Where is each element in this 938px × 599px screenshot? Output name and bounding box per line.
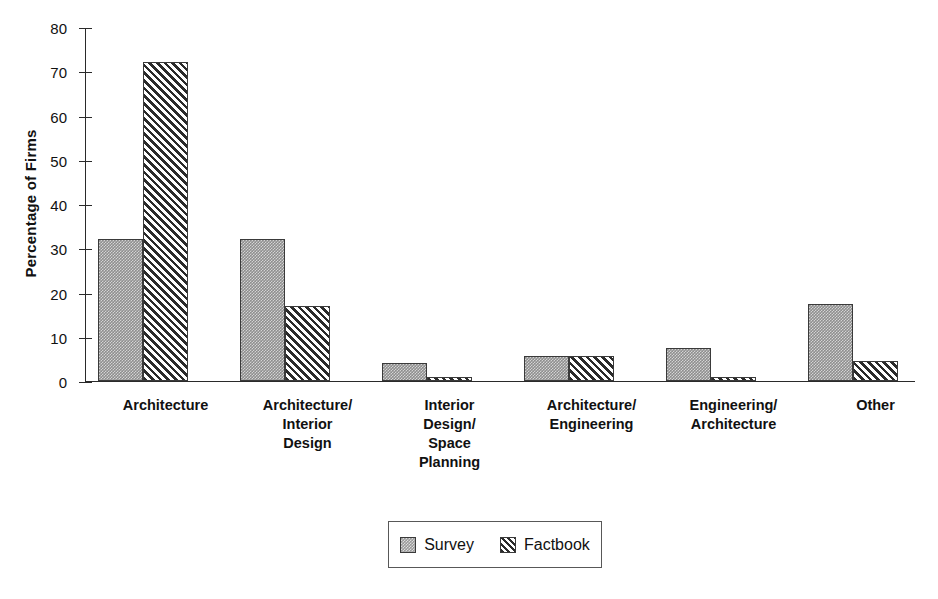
bar-factbook-1 (285, 306, 330, 381)
bar-factbook-5 (853, 361, 898, 381)
x-axis-line (85, 381, 915, 382)
bar-survey-1 (240, 239, 285, 381)
y-tick: 20 (79, 294, 92, 295)
bar-factbook-4 (711, 377, 756, 381)
y-tick: 60 (79, 117, 92, 118)
x-category-label: Other (798, 396, 938, 415)
y-tick-label: 10 (50, 330, 67, 345)
legend-item-survey: Survey (400, 537, 474, 553)
bar-survey-4 (666, 348, 711, 381)
y-tick-label: 70 (50, 65, 67, 80)
y-tick: 30 (79, 249, 92, 250)
y-tick-label: 20 (50, 286, 67, 301)
legend-label-survey: Survey (424, 537, 474, 553)
x-category-label: Engineering/ Architecture (656, 396, 811, 434)
y-tick: 70 (79, 72, 92, 73)
plot-area: 01020304050607080 (85, 28, 915, 382)
y-tick: 50 (79, 161, 92, 162)
bar-survey-3 (524, 356, 569, 381)
x-category-label: Architecture/ Engineering (514, 396, 669, 434)
bar-survey-2 (382, 363, 427, 381)
y-tick: 40 (79, 205, 92, 206)
x-category-label: Interior Design/ Space Planning (372, 396, 527, 472)
legend-swatch-survey-icon (400, 537, 416, 553)
y-tick: 10 (79, 338, 92, 339)
y-tick-label: 50 (50, 153, 67, 168)
y-axis-title: Percentage of Firms (22, 94, 39, 314)
bar-factbook-3 (569, 356, 614, 381)
bar-survey-5 (808, 304, 853, 381)
y-tick-label: 0 (59, 375, 67, 390)
x-category-label: Architecture/ Interior Design (230, 396, 385, 453)
legend-swatch-factbook-icon (500, 537, 516, 553)
legend-label-factbook: Factbook (524, 537, 590, 553)
x-category-label: Architecture (88, 396, 243, 415)
y-tick-label: 30 (50, 242, 67, 257)
y-tick-label: 80 (50, 21, 67, 36)
y-tick: 80 (79, 28, 92, 29)
y-tick: 0 (79, 382, 92, 383)
y-tick-label: 60 (50, 109, 67, 124)
chart-legend: Survey Factbook (388, 521, 602, 568)
bar-chart: Percentage of Firms 01020304050607080 Ar… (0, 0, 938, 599)
bar-survey-0 (98, 239, 143, 381)
legend-item-factbook: Factbook (500, 537, 590, 553)
y-tick-label: 40 (50, 198, 67, 213)
bar-factbook-0 (143, 62, 188, 381)
bar-factbook-2 (427, 377, 472, 381)
